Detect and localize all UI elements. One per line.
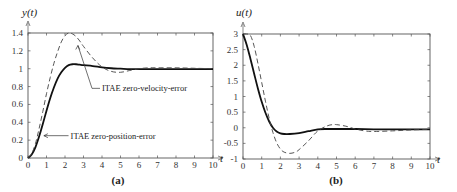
y-tick-label: 1.4	[12, 28, 24, 38]
x-tick-label: 3	[81, 160, 86, 170]
y-axis-title: u(t)	[236, 6, 252, 19]
y-tick-label: 0.4	[12, 117, 24, 127]
x-tick-label: 9	[192, 160, 197, 170]
panel-caption: (b)	[329, 174, 343, 187]
annotation-arrow-icon	[76, 46, 80, 50]
figure: 01234567891000.20.40.60.811.21.4y(t)tITA…	[0, 0, 457, 192]
x-tick-label: 10	[426, 161, 436, 171]
x-tick-label: 2	[278, 161, 283, 171]
x-tick-label: 1	[259, 161, 264, 171]
x-tick-label: 4	[316, 161, 321, 171]
x-tick-label: 0	[241, 161, 246, 171]
x-tick-label: 4	[100, 160, 105, 170]
y-tick-label: 1.2	[12, 46, 23, 56]
x-tick-label: 2	[63, 160, 68, 170]
y-tick-label: 3	[234, 29, 239, 39]
y-tick-label: 1.5	[227, 76, 239, 86]
panel-caption: (a)	[112, 174, 125, 187]
annotation-label: ITAE zero-position-error	[71, 131, 156, 141]
y-tick-label: -0.5	[224, 138, 239, 148]
y-tick-label: 0.2	[12, 135, 23, 145]
x-tick-label: 3	[297, 161, 302, 171]
y-tick-label: 0.8	[12, 82, 24, 92]
x-tick-label: 7	[155, 160, 160, 170]
plot-frame	[243, 34, 430, 159]
y-tick-label: 0.5	[227, 107, 239, 117]
annotation-label: ITAE zero-velocity-error	[102, 83, 187, 93]
y-tick-label: 1	[19, 64, 24, 74]
x-tick-label: 1	[44, 160, 49, 170]
y-tick-label: 0	[234, 123, 239, 133]
chart-panel-a: 01234567891000.20.40.60.811.21.4y(t)tITA…	[12, 6, 224, 187]
x-tick-label: 7	[372, 161, 377, 171]
y-tick-label: 2	[234, 60, 239, 70]
y-tick-label: 0	[19, 153, 24, 163]
x-tick-label: 9	[409, 161, 414, 171]
x-tick-label: 10	[209, 160, 219, 170]
chart-panel-b: 012345678910-1-0.500.511.522.53u(t)t(b)	[224, 6, 441, 187]
x-tick-label: 8	[390, 161, 395, 171]
series-line-zero-position-error	[243, 34, 430, 134]
series-line-zero-velocity-error	[243, 34, 430, 153]
y-tick-label: 1	[234, 92, 239, 102]
x-tick-label: 0	[26, 160, 31, 170]
series-line-zero-position-error	[28, 64, 213, 158]
x-tick-label: 5	[118, 160, 123, 170]
y-tick-label: -1	[231, 154, 239, 164]
x-tick-label: 6	[137, 160, 142, 170]
x-tick-label: 5	[334, 161, 339, 171]
y-tick-label: 0.6	[12, 99, 24, 109]
y-axis-title: y(t)	[21, 6, 38, 19]
x-tick-label: 8	[174, 160, 179, 170]
x-tick-label: 6	[353, 161, 358, 171]
y-tick-label: 2.5	[227, 45, 239, 55]
